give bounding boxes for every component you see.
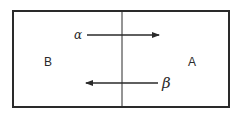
diagram-canvas: α β B A [0,0,239,114]
region-b-label: B [44,55,52,69]
alpha-label: α [74,28,82,42]
beta-label: β [161,74,171,92]
region-a-label: A [188,55,196,69]
